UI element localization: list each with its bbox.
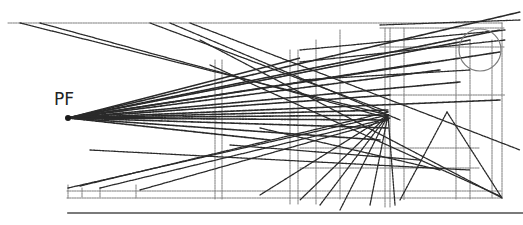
diagram-canvas	[0, 0, 523, 225]
construction-line	[400, 112, 447, 200]
construction-line	[388, 115, 395, 205]
perspective-diagram: PF	[0, 0, 523, 225]
vanishing-point-label: PF	[54, 89, 74, 109]
construction-line	[150, 23, 388, 112]
vanishing-point-dot	[65, 115, 71, 121]
perspective-ray	[68, 40, 470, 118]
construction-line	[40, 23, 388, 118]
construction-line	[447, 112, 502, 198]
circle-guide	[459, 29, 501, 71]
construction-line	[300, 40, 505, 62]
